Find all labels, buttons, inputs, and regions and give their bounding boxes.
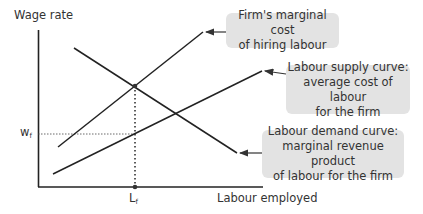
callout-line: of hiring labour <box>226 38 339 53</box>
supply-callout-arrow <box>265 71 286 74</box>
callout-line: Labour supply curve: <box>286 60 410 75</box>
lf-axis-point <box>133 185 138 190</box>
callout-line: marginal revenue product <box>262 139 404 169</box>
callout-line: of labour for the firm <box>262 169 404 184</box>
lf-tick-sub: f <box>135 198 137 206</box>
demand-callout: Labour demand curve: marginal revenue pr… <box>262 130 404 178</box>
supply-callout: Labour supply curve: average cost of lab… <box>286 65 410 114</box>
marginal-cost-callout: Firm's marginal cost of hiring labour <box>226 13 339 48</box>
callout-line: Labour demand curve: <box>262 124 404 139</box>
y-axis-label: Wage rate <box>14 8 73 22</box>
lf-tick-label: Lf <box>129 191 138 206</box>
callout-line: Firm's marginal cost <box>226 8 339 38</box>
callout-line: for the firm <box>286 105 410 120</box>
equilibrium-point <box>133 84 138 89</box>
wf-tick-main: w <box>20 125 29 139</box>
labour-supply-curve <box>53 71 262 174</box>
callout-line: average cost of labour <box>286 75 410 105</box>
wf-tick-sub: f <box>29 132 31 140</box>
wf-tick-label: wf <box>20 125 32 140</box>
marginal-cost-curve <box>58 32 203 147</box>
x-axis-label: Labour employed <box>217 191 317 205</box>
labour-demand-curve <box>74 48 237 153</box>
